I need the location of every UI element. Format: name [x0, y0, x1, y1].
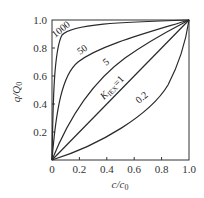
curves — [52, 20, 189, 160]
x-tick-labels: 0 0.2 0.4 0.6 0.8 1.0 — [49, 163, 196, 175]
svg-text:0.8: 0.8 — [33, 42, 47, 54]
svg-text:0.2: 0.2 — [33, 126, 47, 138]
curve-label-5: 5 — [100, 56, 111, 68]
svg-text:0.8: 0.8 — [155, 163, 169, 175]
svg-text:1.0: 1.0 — [33, 14, 47, 26]
svg-text:0.4: 0.4 — [100, 163, 114, 175]
svg-text:0.2: 0.2 — [73, 163, 87, 175]
x-axis-label: c/c0 — [112, 178, 129, 192]
svg-text:0: 0 — [49, 163, 55, 175]
svg-text:0.4: 0.4 — [33, 98, 47, 110]
svg-text:0.6: 0.6 — [33, 70, 47, 82]
curve-label-0.2: 0.2 — [133, 89, 150, 105]
y-tick-labels: 0.2 0.4 0.6 0.8 1.0 — [33, 14, 47, 138]
isotherm-chart: 0 0.2 0.4 0.6 0.8 1.0 0.2 0.4 0.6 0.8 1.… — [0, 0, 204, 198]
svg-text:1.0: 1.0 — [182, 163, 196, 175]
curve-label-50: 50 — [75, 42, 90, 57]
y-axis-label: q/Q0 — [10, 82, 24, 103]
svg-text:0.6: 0.6 — [127, 163, 141, 175]
